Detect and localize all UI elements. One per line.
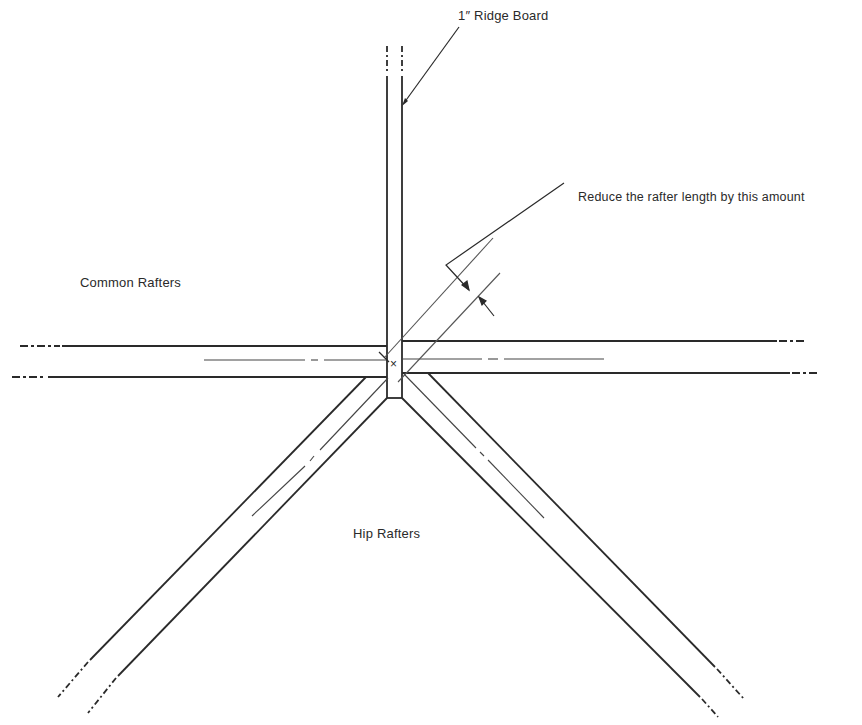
- center-mark-icon: ×: [390, 357, 397, 371]
- ridge-board-label: 1″ Ridge Board: [458, 8, 549, 23]
- ridge-board-leader: [404, 27, 459, 103]
- common-rafter-centerline: [204, 359, 604, 360]
- common-rafters-label: Common Rafters: [80, 275, 181, 290]
- reduce-length-label: Reduce the rafter length by this amount: [578, 190, 805, 204]
- hip-rafters-label: Hip Rafters: [353, 526, 420, 541]
- hip-rafters: [58, 373, 744, 717]
- rafter-diagram: [0, 0, 862, 725]
- reduction-dimension: [446, 183, 564, 316]
- ridge-board: [387, 46, 402, 398]
